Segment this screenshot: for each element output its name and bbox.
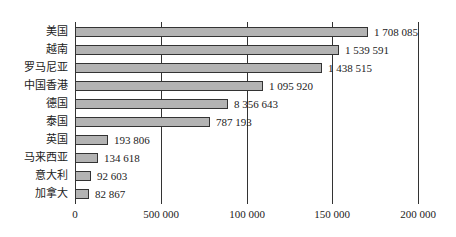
bar	[75, 117, 210, 127]
value-label: 92 603	[97, 170, 127, 182]
value-label: 1 708 085	[374, 26, 418, 38]
bar	[75, 99, 228, 109]
x-tick-label: 150 000	[314, 208, 350, 220]
gridline	[418, 22, 419, 204]
value-label: 193 806	[114, 134, 150, 146]
bar	[75, 153, 98, 163]
category-label: 意大利	[2, 170, 68, 182]
value-label: 787 193	[216, 116, 252, 128]
category-label: 英国	[2, 134, 68, 146]
category-label: 罗马尼亚	[2, 62, 68, 74]
x-tick-label: 100 000	[229, 208, 265, 220]
category-label: 美国	[2, 26, 68, 38]
category-label: 泰国	[2, 116, 68, 128]
value-label: 8 356 643	[234, 98, 278, 110]
x-tick-label: 0	[72, 208, 78, 220]
category-label: 加拿大	[2, 188, 68, 200]
value-label: 82 867	[95, 188, 125, 200]
x-tick-label: 500 000	[143, 208, 179, 220]
bar	[75, 45, 339, 55]
x-tick-label: 200 000	[400, 208, 436, 220]
value-label: 1 438 515	[328, 62, 372, 74]
bar	[75, 27, 368, 37]
category-label: 中国香港	[2, 80, 68, 92]
category-label: 德国	[2, 98, 68, 110]
category-label: 马来西亚	[2, 152, 68, 164]
category-label: 越南	[2, 44, 68, 56]
value-label: 134 618	[104, 152, 140, 164]
bar	[75, 189, 89, 199]
value-label: 1 539 591	[345, 44, 389, 56]
bar	[75, 81, 263, 91]
bar	[75, 135, 108, 145]
bar	[75, 171, 91, 181]
value-label: 1 095 920	[269, 80, 313, 92]
bar	[75, 63, 322, 73]
horizontal-bar-chart: 美国1 708 085越南1 539 591罗马尼亚1 438 515中国香港1…	[0, 0, 456, 237]
